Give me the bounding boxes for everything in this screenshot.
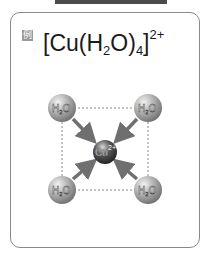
water-ligand-bottom-left: H2O (48, 176, 76, 204)
water-ligand-bottom-right: H2O (134, 176, 162, 204)
center-ion: Cu 2+ (93, 140, 117, 164)
coordination-diagram: Cu 2+ H2O H2O H2O H2O (0, 0, 215, 256)
water-ligand-top-left: H2O (48, 94, 76, 122)
water-ligand-top-right: H2O (134, 94, 162, 122)
cu-charge: 2+ (108, 144, 116, 151)
cu-label: Cu (95, 147, 108, 158)
